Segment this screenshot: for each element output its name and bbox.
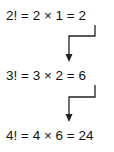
arrows-layer <box>0 0 114 152</box>
arrow-3-to-4 <box>69 85 95 116</box>
arrowhead-icon <box>66 114 73 122</box>
arrow-2-to-3 <box>69 25 95 56</box>
arrowhead-icon <box>66 54 73 62</box>
